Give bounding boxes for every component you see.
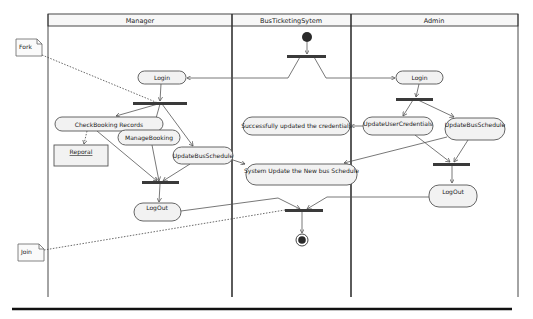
manager-update-bus-schedule-label: UpdateBusSchedule [173, 152, 234, 160]
check-booking-records-node[interactable]: CheckBooking Records [55, 117, 163, 131]
manager-login-label: Login [154, 74, 170, 82]
edge-manager-updatebus-to-system [233, 160, 245, 164]
edge-updatebus-to-join [163, 164, 190, 181]
control-nodes [133, 32, 470, 246]
manager-login-node[interactable]: Login [138, 71, 186, 84]
manager-logout-node[interactable]: LogOut [134, 203, 181, 221]
update-user-credentials-label: UpdateUserCredentials [363, 120, 432, 128]
update-user-credentials-node[interactable]: UpdateUserCredentials [363, 117, 433, 135]
system-update-bus-schedule-node[interactable]: System Update the New bus Schedule [244, 164, 359, 185]
check-booking-records-label: CheckBooking Records [75, 121, 143, 129]
edge-admin-updatebus-to-join [454, 140, 468, 162]
admin-logout-node[interactable]: LogOut [429, 185, 477, 207]
fork-note-text: Fork [19, 43, 32, 50]
edge-admin-logout-to-system-join [307, 197, 429, 209]
reporal-object-node[interactable]: Reporal [54, 145, 108, 166]
swimlane-frame: Manager BusTicketingSytem Admin [48, 14, 518, 297]
edge-admin-login-to-fork [416, 84, 419, 97]
admin-update-bus-schedule-node[interactable]: UpdateBusSchedule [445, 118, 506, 140]
edge-fork-to-updateusercred [403, 100, 413, 116]
admin-update-bus-schedule-label: UpdateBusSchedule [445, 121, 506, 129]
manage-booking-node[interactable]: ManageBooking [118, 130, 180, 145]
edge-admin-updatebus-to-system [344, 137, 447, 163]
activity-diagram: Manager BusTicketingSytem Admin [0, 0, 533, 319]
manager-join-bar [142, 181, 179, 184]
system-update-bus-schedule-label: System Update the New bus Schedule [244, 167, 359, 175]
lane-title-system: BusTicketingSytem [260, 17, 322, 25]
admin-login-node[interactable]: Login [396, 71, 443, 84]
admin-fork-bar [396, 98, 433, 101]
admin-logout-label: LogOut [442, 188, 464, 196]
final-node [296, 234, 308, 246]
admin-login-label: Login [411, 74, 427, 82]
manager-logout-label: LogOut [146, 204, 168, 212]
manage-booking-label: ManageBooking [125, 134, 173, 142]
system-join-bar [285, 209, 323, 212]
system-fork-bar [287, 55, 326, 58]
join-note[interactable]: Join [18, 244, 44, 261]
edge-fork-to-manager-login [187, 57, 300, 78]
initial-node [302, 32, 312, 42]
manager-update-bus-schedule-node[interactable]: UpdateBusSchedule [173, 147, 234, 164]
edge-fork-to-checkbooking [116, 104, 158, 116]
join-note-text: Join [20, 248, 32, 256]
edge-join-to-manager-logout [159, 184, 160, 202]
successfully-updated-credentials-label: Successfully updated the credentials [241, 122, 352, 130]
edge-checkbooking-to-reporal [84, 131, 87, 144]
edge-manager-login-to-fork [160, 84, 161, 101]
edge-managebooking-to-join [152, 145, 159, 181]
reporal-label: Reporal [70, 148, 93, 156]
lane-title-admin: Admin [424, 17, 445, 25]
manager-fork-bar [133, 102, 187, 105]
lane-title-manager: Manager [126, 17, 155, 25]
edge-fork-to-admin-updatebus [418, 100, 454, 117]
edge-manager-logout-to-system-join [181, 198, 300, 211]
fork-note[interactable]: Fork [16, 39, 42, 56]
edge-usercred-to-join [415, 135, 450, 162]
edge-fork-to-admin-login [314, 57, 395, 78]
successfully-updated-credentials-node[interactable]: Successfully updated the credentials [241, 117, 352, 135]
admin-join-bar [433, 163, 470, 166]
